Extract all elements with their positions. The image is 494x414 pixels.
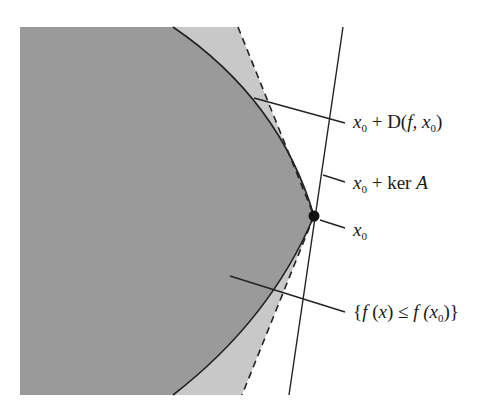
diagram-canvas: [0, 0, 494, 414]
label-kernel: x0 + ker A: [353, 173, 428, 195]
level-set-region: [20, 27, 314, 395]
label-descent-cone: x0 + D(f, x0): [353, 112, 442, 134]
leader-kernel: [323, 175, 345, 182]
leader-point: [320, 220, 345, 228]
point-x0: [309, 211, 320, 222]
label-level-set: {f (x) ≤ f (x0)}: [353, 302, 459, 324]
label-point: x0: [353, 220, 367, 242]
